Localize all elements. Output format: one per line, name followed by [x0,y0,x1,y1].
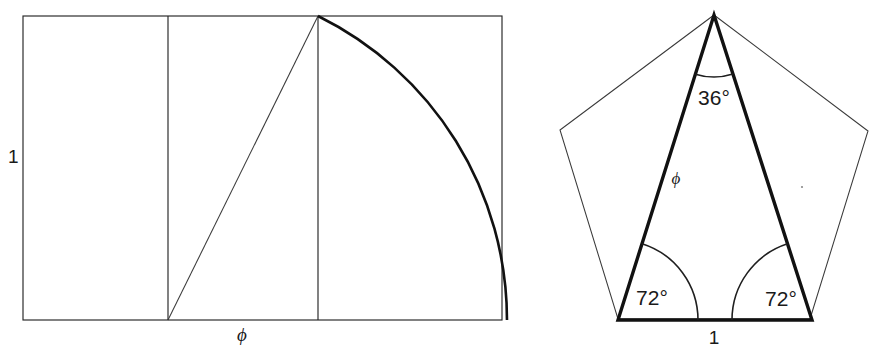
left-height-label: 1 [8,146,19,167]
golden-triangle-outline [618,15,812,320]
scan-speck [801,186,803,188]
left-panel-group [23,16,507,320]
triangle-base-label: 1 [709,327,720,348]
construction-arc [318,16,507,320]
apex-angle-label: 36° [698,86,730,109]
left-base-angle-label: 72° [636,286,668,309]
right-panel-group [560,15,868,320]
pentagon-outline [560,15,868,319]
golden-ratio-figure: 1 ϕ 36° 72° 72° ϕ 1 [0,0,878,354]
golden-rectangle-outline [23,16,502,320]
left-width-label: ϕ [237,324,247,345]
diagonal-radius-line [168,16,318,320]
triangle-leg-label: ϕ [672,169,681,188]
figure-root: 1 ϕ 36° 72° 72° ϕ 1 [0,0,878,354]
right-base-angle-label: 72° [765,287,797,310]
apex-angle-arc [695,74,733,77]
